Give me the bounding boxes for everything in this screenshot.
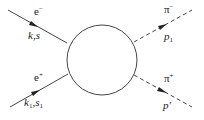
electron-label: e− bbox=[34, 6, 43, 17]
positron-label: e+ bbox=[34, 72, 43, 83]
electron-momentum-label: k,s bbox=[28, 30, 40, 41]
pi-minus-momentum-label: p1 bbox=[164, 31, 173, 44]
interaction-blob bbox=[67, 25, 137, 95]
electron-arrow-icon bbox=[29, 21, 38, 27]
pi-plus-momentum-label: p′ bbox=[163, 100, 171, 111]
pi-plus-label: π+ bbox=[164, 73, 174, 84]
positron-momentum-label: k1,s1 bbox=[24, 97, 43, 110]
pi-plus-arrow-icon bbox=[157, 87, 167, 93]
pi-minus-label: π− bbox=[164, 4, 174, 15]
